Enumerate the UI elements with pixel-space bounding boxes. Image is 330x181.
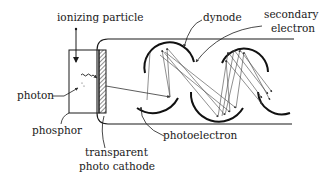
pmt-diagram: ionizing particle dynode secondary elect… [0, 0, 330, 181]
secondary-electron-paths [147, 48, 272, 117]
photoelectron-path [106, 86, 170, 97]
label-phosphor: phosphor [32, 124, 83, 136]
label-dynode: dynode [203, 11, 242, 23]
label-photo-cathode: photo cathode [79, 160, 155, 172]
label-photon: photon [17, 89, 54, 101]
label-ionizing-particle: ionizing particle [57, 11, 144, 23]
ionizing-particle-arrow [75, 28, 77, 62]
label-secondary: secondary [264, 8, 319, 20]
dynodes [137, 42, 290, 121]
label-photoelectron: photoelectron [163, 129, 238, 141]
photocathode [99, 50, 106, 113]
photon-wave-icon [81, 74, 97, 78]
label-transparent: transparent [85, 146, 149, 158]
tube-envelope [97, 39, 294, 124]
phosphor-block [69, 50, 99, 113]
label-electron: electron [271, 22, 315, 34]
